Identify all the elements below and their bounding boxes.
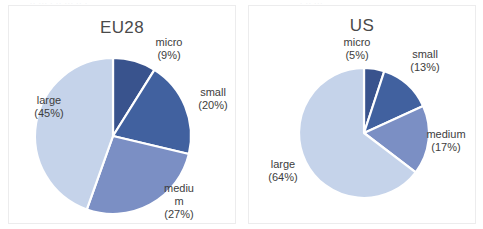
figure-container: ·· ··· · ·· ··· ·· · · ·· ··· EU28 micro… xyxy=(0,0,483,229)
pie-label-eu28-small: small (20%) xyxy=(185,86,241,112)
chart-title-eu28: EU28 xyxy=(9,18,235,38)
chart-panel-eu28: EU28 micro (9%) small (20%) mediu m (27%… xyxy=(8,5,236,224)
pie-label-us-small: small (13%) xyxy=(397,48,453,74)
pie-label-eu28-large: large (45%) xyxy=(21,94,77,120)
pie-label-eu28-medium: mediu m (27%) xyxy=(151,182,207,221)
pie-label-us-large: large (64%) xyxy=(255,158,311,184)
chart-panel-us: US micro (5%) small (13%) medium (17%) l… xyxy=(248,5,476,224)
chart-area-eu28: EU28 micro (9%) small (20%) mediu m (27%… xyxy=(9,6,235,223)
pie-chart-us xyxy=(297,66,431,200)
chart-area-us: US micro (5%) small (13%) medium (17%) l… xyxy=(249,6,475,223)
pie-label-us-micro: micro (5%) xyxy=(329,36,385,62)
chart-title-us: US xyxy=(249,16,475,36)
pie-label-eu28-micro: micro (9%) xyxy=(141,36,197,62)
pie-label-us-medium: medium (17%) xyxy=(415,128,477,154)
